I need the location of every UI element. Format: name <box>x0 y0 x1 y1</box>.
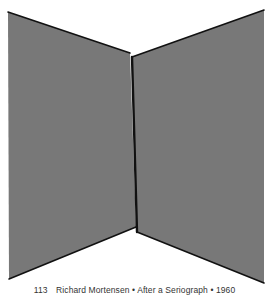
caption-artist: Richard Mortensen <box>56 285 130 295</box>
caption-separator-1: • <box>132 285 135 295</box>
caption-separator-2: • <box>210 285 213 295</box>
caption-title: After a Seriograph <box>137 285 208 295</box>
caption-year: 1960 <box>216 285 235 295</box>
artwork <box>0 0 269 284</box>
right-panel <box>132 10 264 283</box>
caption-number: 113 <box>34 285 48 295</box>
left-panel <box>8 12 136 279</box>
caption: 113 Richard Mortensen • After a Seriogra… <box>0 285 269 296</box>
